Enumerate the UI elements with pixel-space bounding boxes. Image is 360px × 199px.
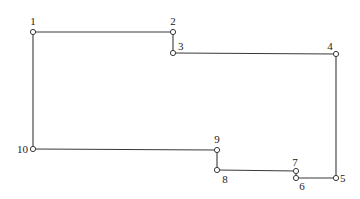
vertex-8 xyxy=(214,167,219,172)
vertex-label-3: 3 xyxy=(178,40,184,52)
edges-group xyxy=(33,32,336,178)
vertex-label-1: 1 xyxy=(30,15,36,27)
vertex-label-9: 9 xyxy=(214,133,220,145)
vertex-label-5: 5 xyxy=(340,172,346,184)
labels-group: 12345678910 xyxy=(17,15,346,192)
vertex-10 xyxy=(30,146,35,151)
vertex-label-6: 6 xyxy=(299,180,305,192)
vertex-9 xyxy=(214,147,219,152)
vertex-2 xyxy=(170,29,175,34)
vertex-4 xyxy=(333,51,338,56)
vertex-6 xyxy=(293,175,298,180)
vertex-label-10: 10 xyxy=(17,143,29,155)
vertex-label-4: 4 xyxy=(327,40,333,52)
vertex-7 xyxy=(293,168,298,173)
polygon-diagram: 12345678910 xyxy=(0,0,360,199)
vertex-label-2: 2 xyxy=(170,15,176,27)
vertex-1 xyxy=(30,29,35,34)
vertex-label-8: 8 xyxy=(222,173,228,185)
vertex-5 xyxy=(333,175,338,180)
vertex-label-7: 7 xyxy=(292,156,298,168)
edge-3-4 xyxy=(173,53,336,54)
edge-7-8 xyxy=(217,170,296,171)
edge-9-10 xyxy=(33,149,217,150)
vertex-3 xyxy=(170,50,175,55)
